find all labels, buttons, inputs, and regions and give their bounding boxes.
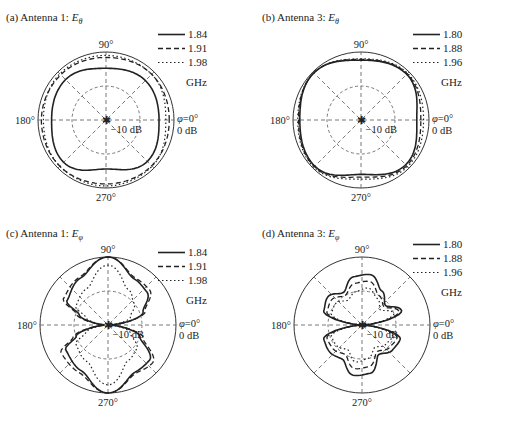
label-0db: 0 dB [433, 330, 453, 341]
label-270: 270° [352, 397, 372, 408]
legend-label: 1.91 [188, 42, 207, 54]
label-minus10db: −10 dB [366, 124, 397, 135]
legend-label: 1.80 [443, 28, 463, 40]
center-mark: ✱ [102, 115, 111, 126]
center-mark: ✱ [104, 320, 113, 331]
legend-unit: GHz [441, 76, 462, 88]
legend-unit: GHz [186, 294, 207, 306]
label-90: 90° [99, 39, 114, 50]
polar-panel-c: (c) Antenna 1: Eφ✱90°270°180°φ=0°0 dB−10… [6, 227, 208, 408]
legend-label: 1.96 [443, 266, 463, 278]
panel-title: (c) Antenna 1: Eφ [6, 227, 83, 242]
polar-panel-b: (b) Antenna 3: Eθ✱90°270°180°φ=0°0 dB−10… [262, 11, 463, 203]
polar-panel-d: (d) Antenna 3: Eφ✱90°270°180°φ=0°0 dB−10… [262, 227, 463, 408]
panel-title: (a) Antenna 1: Eθ [6, 11, 82, 26]
legend-label: 1.88 [443, 42, 463, 54]
label-phi-0: φ=0° [179, 318, 200, 329]
legend: 1.841.911.98GHz [158, 28, 208, 88]
label-0db: 0 dB [432, 125, 452, 136]
label-270: 270° [96, 192, 116, 203]
panel-title: (d) Antenna 3: Eφ [262, 227, 340, 242]
legend-unit: GHz [186, 76, 207, 88]
label-90: 90° [101, 244, 116, 255]
legend: 1.801.881.96GHz [413, 238, 463, 298]
label-minus10db: −10 dB [111, 124, 142, 135]
label-0db: 0 dB [179, 330, 199, 341]
legend-label: 1.98 [188, 56, 208, 68]
legend-label: 1.80 [443, 238, 463, 250]
label-phi-0: φ=0° [177, 113, 198, 124]
label-180: 180° [270, 115, 290, 126]
legend-label: 1.88 [443, 252, 463, 264]
legend: 1.841.911.98GHz [158, 246, 208, 306]
label-90: 90° [355, 244, 370, 255]
label-180: 180° [271, 320, 291, 331]
legend-label: 1.91 [188, 260, 207, 272]
label-180: 180° [15, 115, 35, 126]
label-phi-0: φ=0° [432, 113, 453, 124]
label-180: 180° [17, 320, 37, 331]
label-270: 270° [98, 397, 118, 408]
legend-label: 1.98 [188, 274, 208, 286]
legend-label: 1.84 [188, 28, 208, 40]
center-mark: ✱ [357, 115, 366, 126]
label-minus10db: −10 dB [113, 329, 144, 340]
legend: 1.801.881.96GHz [413, 28, 463, 88]
label-phi-0: φ=0° [433, 318, 454, 329]
polar-figure: (a) Antenna 1: Eθ✱90°270°180°φ=0°0 dB−10… [0, 0, 505, 426]
label-0db: 0 dB [177, 125, 197, 136]
label-270: 270° [351, 192, 371, 203]
legend-unit: GHz [441, 286, 462, 298]
label-90: 90° [354, 39, 369, 50]
legend-label: 1.84 [188, 246, 208, 258]
legend-label: 1.96 [443, 56, 463, 68]
panel-title: (b) Antenna 3: Eθ [262, 11, 339, 26]
label-minus10db: −10 dB [367, 329, 398, 340]
polar-panel-a: (a) Antenna 1: Eθ✱90°270°180°φ=0°0 dB−10… [6, 11, 208, 203]
